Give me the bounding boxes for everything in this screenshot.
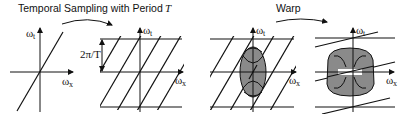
omega-t-label: ω t — [143, 24, 153, 38]
warp-caption: Warp — [276, 2, 301, 14]
panel-sampled-spectrum: 2π/T ω t ω x — [77, 24, 203, 112]
svg-text:x: x — [69, 80, 73, 89]
sampling-caption: Temporal Sampling with Period T — [18, 2, 172, 14]
panel-sampled-with-filter: ω t ω x — [190, 24, 316, 112]
period-label: 2π/T — [80, 48, 101, 60]
svg-text:t: t — [263, 29, 266, 38]
omega-x-label: ω x — [386, 74, 397, 88]
omega-x-label: ω x — [289, 74, 300, 88]
svg-text:x: x — [393, 79, 397, 88]
omega-t-label: ω t — [356, 24, 366, 38]
omega-t-label: ω t — [26, 27, 36, 41]
panel-warped-with-filter: ω t ω x — [315, 24, 397, 114]
panel-original-spectrum: ω t ω x — [10, 27, 73, 112]
omega-x-label: ω x — [62, 75, 73, 89]
svg-text:t: t — [150, 29, 153, 38]
svg-text:t: t — [33, 32, 36, 41]
period-variable: T — [165, 2, 172, 14]
omega-t-label: ω t — [256, 24, 266, 38]
svg-text:x: x — [296, 79, 300, 88]
svg-text:t: t — [363, 29, 366, 38]
diagram-canvas: Temporal Sampling with Period T Warp ω t… — [0, 0, 408, 119]
svg-text:x: x — [182, 79, 186, 88]
omega-x-label: ω x — [175, 74, 186, 88]
warp-arrow — [276, 19, 327, 22]
sampling-caption-text: Temporal Sampling with Period — [18, 2, 163, 14]
sampling-arrow — [62, 20, 112, 25]
